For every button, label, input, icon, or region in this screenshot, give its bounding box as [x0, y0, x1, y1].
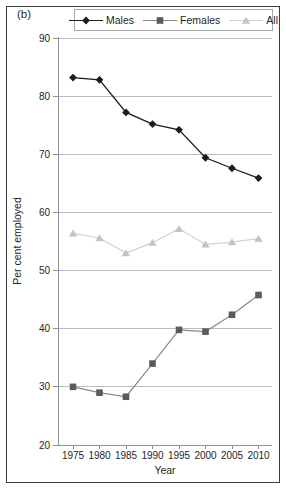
figure-panel: (b) MalesFemalesAll 20304050607080901975… — [0, 0, 286, 493]
series-males-point-1975 — [69, 74, 77, 82]
series-females-point-1980 — [96, 389, 103, 396]
y-tick-label-60: 60 — [39, 207, 51, 218]
series-females-point-2000 — [202, 328, 209, 335]
y-tick-label-50: 50 — [39, 265, 51, 276]
x-tick-label-1995: 1995 — [168, 450, 191, 461]
y-tick-label-40: 40 — [39, 323, 51, 334]
x-tick-label-1985: 1985 — [115, 450, 138, 461]
series-females-point-1975 — [70, 384, 77, 391]
series-females-line — [73, 295, 259, 397]
series-all-point-1990 — [148, 239, 156, 246]
x-tick-label-1975: 1975 — [62, 450, 85, 461]
series-all — [69, 225, 263, 256]
series-all-point-1985 — [122, 249, 130, 256]
x-tick-label-1980: 1980 — [88, 450, 111, 461]
x-tick-label-2000: 2000 — [194, 450, 217, 461]
series-females-point-1985 — [123, 393, 130, 400]
series-all-point-2010 — [254, 235, 262, 242]
y-axis-title: Per cent employed — [11, 197, 23, 285]
series-all-point-1995 — [175, 225, 183, 232]
y-tick-label-90: 90 — [39, 33, 51, 44]
x-tick-label-1990: 1990 — [141, 450, 164, 461]
series-females-point-2005 — [229, 311, 236, 318]
y-tick-label-70: 70 — [39, 149, 51, 160]
series-females-point-1995 — [176, 327, 183, 334]
series-females — [70, 292, 262, 400]
series-all-point-1975 — [69, 230, 77, 237]
series-females-point-1990 — [149, 360, 156, 367]
series-males-point-1990 — [149, 120, 157, 128]
x-axis-title: Year — [154, 464, 175, 476]
series-males-point-2005 — [228, 164, 236, 172]
x-tick-label-2010: 2010 — [247, 450, 270, 461]
x-tick-label-2005: 2005 — [221, 450, 244, 461]
series-males-point-2010 — [255, 174, 263, 182]
y-tick-label-80: 80 — [39, 91, 51, 102]
line-chart: 2030405060708090197519801985199019952000… — [0, 0, 286, 493]
y-tick-label-20: 20 — [39, 440, 51, 451]
series-females-point-2010 — [255, 292, 262, 299]
series-males-line — [73, 78, 259, 179]
series-males — [69, 74, 262, 182]
y-tick-label-30: 30 — [39, 381, 51, 392]
